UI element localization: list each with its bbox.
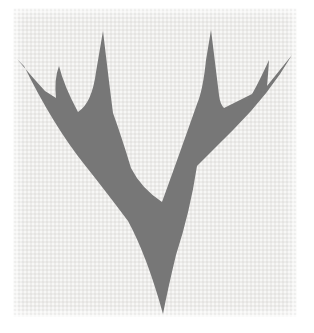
scanned-figure-panel xyxy=(13,8,297,317)
page xyxy=(0,0,314,333)
halftone-paper-texture xyxy=(13,8,297,317)
